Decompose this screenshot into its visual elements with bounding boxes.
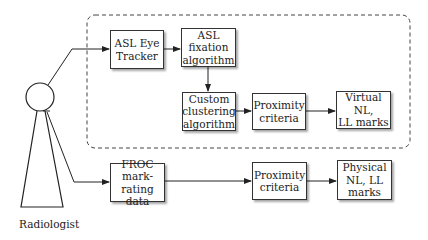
node-label: Virtual NL, LL marks	[337, 91, 390, 129]
node-asl-eye-tracker: ASL Eye Tracker	[110, 30, 164, 69]
node-label: Custom clustering algorithm	[182, 93, 236, 131]
node-asl-fixation-algorithm: ASL fixation algorithm	[181, 28, 236, 67]
node-label: Proximity criteria	[253, 99, 304, 124]
node-proximity-criteria-physical: Proximity criteria	[252, 162, 307, 200]
radiologist-label: Radiologist	[19, 218, 79, 230]
radiologist-figure-icon	[21, 83, 63, 207]
node-custom-clustering-algorithm: Custom clustering algorithm	[182, 92, 236, 131]
node-physical-marks: Physical NL, LL marks	[337, 160, 392, 200]
node-label: Proximity criteria	[254, 169, 305, 194]
node-virtual-marks: Virtual NL, LL marks	[336, 91, 391, 129]
node-label: ASL Eye Tracker	[115, 37, 160, 62]
node-froc-mark-rating-data: FROC mark-rating data	[110, 163, 165, 202]
node-label: Physical NL, LL marks	[342, 161, 386, 199]
node-proximity-criteria-virtual: Proximity criteria	[252, 93, 306, 130]
node-label: FROC mark-rating data	[111, 158, 164, 208]
node-label: ASL fixation algorithm	[183, 29, 235, 67]
